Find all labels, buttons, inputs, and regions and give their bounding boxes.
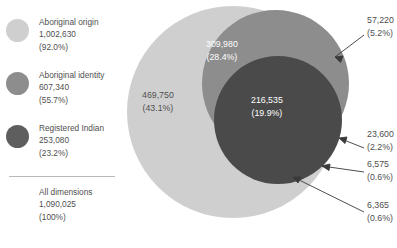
- callout-23600: 23,600 (2.2%): [367, 128, 394, 153]
- callout-percent: (0.6%): [367, 171, 393, 184]
- callout-6575: 6,575 (0.6%): [367, 158, 393, 183]
- legend-item-name: Aboriginal identity: [39, 69, 105, 81]
- leader-lines-group: [126, 0, 397, 248]
- legend-swatch-circle-identity: [6, 72, 29, 95]
- leader-arrow-0: [335, 56, 343, 63]
- legend-divider: [9, 176, 115, 177]
- legend-item-text: Registered Indian 253,080 (23.2%): [39, 122, 104, 159]
- callout-value: 6,365: [367, 199, 393, 212]
- legend-item-text: Aboriginal origin 1,002,630 (92.0%): [39, 16, 99, 53]
- legend-item-registered-indian[interactable]: Registered Indian 253,080 (23.2%): [6, 122, 104, 159]
- legend-item-value: 253,080: [39, 134, 104, 146]
- leader-line-0: [335, 35, 364, 57]
- legend-item-value: 607,340: [39, 81, 105, 93]
- legend-swatch-circle-registered: [6, 125, 29, 148]
- legend-item-aboriginal-identity[interactable]: Aboriginal identity 607,340 (55.7%): [6, 69, 105, 106]
- venn-diagram: 469,750 (43.1%) 309,980 (28.4%) 216,535 …: [126, 0, 397, 248]
- callout-value: 23,600: [367, 128, 394, 141]
- legend-total-percent: (100%): [39, 211, 93, 223]
- leader-line-3: [293, 177, 364, 212]
- legend-item-text: Aboriginal identity 607,340 (55.7%): [39, 69, 105, 106]
- leader-arrow-1: [339, 137, 347, 144]
- legend-item-percent: (92.0%): [39, 41, 99, 53]
- legend-item-value: 1,002,630: [39, 28, 99, 40]
- callout-percent: (2.2%): [367, 141, 394, 154]
- callout-value: 57,220: [367, 14, 394, 27]
- callout-value: 6,575: [367, 158, 393, 171]
- legend-swatch-circle-origin: [6, 19, 29, 42]
- legend-total-value: 1,090,025: [39, 198, 93, 210]
- legend-item-percent: (55.7%): [39, 94, 105, 106]
- callout-percent: (5.2%): [367, 27, 394, 40]
- callout-percent: (0.6%): [367, 212, 393, 225]
- leader-arrow-2: [322, 164, 330, 171]
- legend-total-name: All dimensions: [39, 186, 93, 198]
- callout-6365: 6,365 (0.6%): [367, 199, 393, 224]
- legend-total: All dimensions 1,090,025 (100%): [39, 186, 93, 223]
- legend-item-percent: (23.2%): [39, 147, 104, 159]
- callout-57220: 57,220 (5.2%): [367, 14, 394, 39]
- legend: Aboriginal origin 1,002,630 (92.0%) Abor…: [0, 0, 126, 248]
- legend-item-aboriginal-origin[interactable]: Aboriginal origin 1,002,630 (92.0%): [6, 16, 99, 53]
- legend-item-name: Registered Indian: [39, 122, 104, 134]
- leader-arrow-3: [293, 177, 301, 183]
- legend-item-name: Aboriginal origin: [39, 16, 99, 28]
